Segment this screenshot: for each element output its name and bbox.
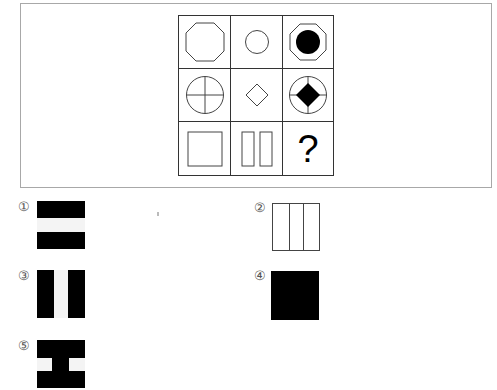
cell-r2-c1 [179, 69, 231, 122]
option-2[interactable] [272, 203, 320, 251]
scan-speck [157, 212, 159, 216]
option-3-label: ③ [18, 268, 30, 283]
divider-line-2 [303, 204, 304, 250]
question-mark: ? [297, 130, 318, 168]
option-5-label: ⑤ [18, 338, 30, 353]
octagon-icon [183, 20, 227, 64]
white-vertical-band [54, 270, 68, 318]
option-2-label: ② [254, 200, 266, 215]
divider-line-1 [289, 204, 290, 250]
octagon-filled-circle-icon [288, 22, 328, 62]
diamond-icon [244, 82, 270, 108]
white-horizontal-band [37, 218, 85, 232]
option-5[interactable] [37, 340, 85, 388]
cell-r2-c3 [283, 69, 333, 122]
option-4[interactable] [271, 271, 319, 320]
circle-icon [244, 29, 270, 55]
cell-r3-c1 [179, 122, 231, 175]
puzzle-grid: ? [178, 15, 334, 176]
option-1-label: ① [18, 199, 30, 214]
cell-r3-c3: ? [283, 122, 333, 175]
cell-r1-c3 [283, 16, 333, 69]
option-4-label: ④ [254, 268, 266, 283]
circle-cross-icon [185, 75, 225, 115]
option-1[interactable] [37, 201, 85, 249]
cell-r3-c2 [231, 122, 283, 175]
white-left-notch [37, 358, 52, 371]
square-icon [185, 129, 225, 169]
two-rectangles-icon [237, 129, 277, 169]
option-3[interactable] [37, 270, 85, 318]
circle-cross-filled-diamond-icon [288, 75, 328, 115]
cell-r1-c1 [179, 16, 231, 69]
cell-r2-c2 [231, 69, 283, 122]
cell-r1-c2 [231, 16, 283, 69]
white-right-notch [69, 358, 85, 371]
